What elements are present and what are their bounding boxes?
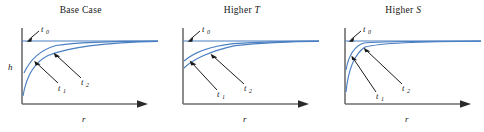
annotation-arrow-t2 (366, 50, 402, 84)
panel-higher-s: Higher S r t 0 t 1 t 2 (323, 0, 484, 132)
annotation-label-t2: t (402, 83, 405, 93)
y-axis-label: h (8, 62, 13, 72)
annotation-arrow-t1 (36, 63, 57, 83)
annotation-label-t1: t (58, 83, 61, 93)
annotation-arrow-t1 (353, 58, 376, 92)
annotation-label-t2: t (81, 77, 84, 87)
annotation-label-t1: t (217, 89, 220, 99)
annotation-label-t1: t (376, 91, 379, 101)
annotation-subscript-t0: 0 (368, 30, 371, 36)
annotation-arrow-t0 (28, 31, 38, 40)
annotation-arrowhead-t2 (363, 48, 370, 52)
annotation-arrowhead-t2 (211, 54, 218, 59)
curve-t1 (184, 41, 319, 68)
plot-higher-t: r t 0 t 1 t 2 (161, 0, 322, 132)
annotation-arrow-t0 (350, 31, 360, 40)
annotation-label-t0: t (41, 24, 44, 34)
x-axis-arrowhead (460, 100, 471, 107)
x-axis-arrowhead (298, 100, 309, 107)
annotation-subscript-t1: 1 (381, 96, 384, 102)
annotation-label-t0: t (202, 24, 205, 34)
x-axis-label: r (243, 114, 247, 124)
annotation-subscript-t2: 2 (407, 88, 410, 94)
annotation-arrow-t2 (56, 55, 81, 78)
curve-t1 (346, 41, 481, 92)
curve-t2 (346, 41, 481, 70)
plot-higher-s: r t 0 t 1 t 2 (323, 0, 484, 132)
x-axis-label: r (82, 114, 86, 124)
annotation-subscript-t0: 0 (46, 30, 49, 36)
annotation-label-t0: t (363, 24, 366, 34)
x-axis-arrowhead (137, 100, 148, 107)
plot-base-case: h r t 0 t 1 t 2 (0, 0, 161, 132)
panel-higher-t: Higher T r t 0 t 1 t 2 (161, 0, 322, 132)
annotation-label-t2: t (244, 83, 247, 93)
annotation-subscript-t1: 1 (63, 88, 66, 94)
annotation-subscript-t0: 0 (207, 30, 210, 36)
annotation-arrow-t0 (190, 31, 200, 40)
annotation-arrowhead-t2 (54, 53, 60, 58)
annotation-arrow-t2 (213, 56, 244, 84)
annotation-subscript-t1: 1 (222, 94, 225, 100)
annotation-subscript-t2: 2 (249, 88, 252, 94)
annotation-subscript-t2: 2 (86, 82, 89, 88)
figure-container: Base Case h r t 0 (0, 0, 484, 132)
x-axis-label: r (405, 114, 409, 124)
panel-base-case: Base Case h r t 0 (0, 0, 161, 132)
annotation-arrow-t1 (192, 63, 217, 90)
